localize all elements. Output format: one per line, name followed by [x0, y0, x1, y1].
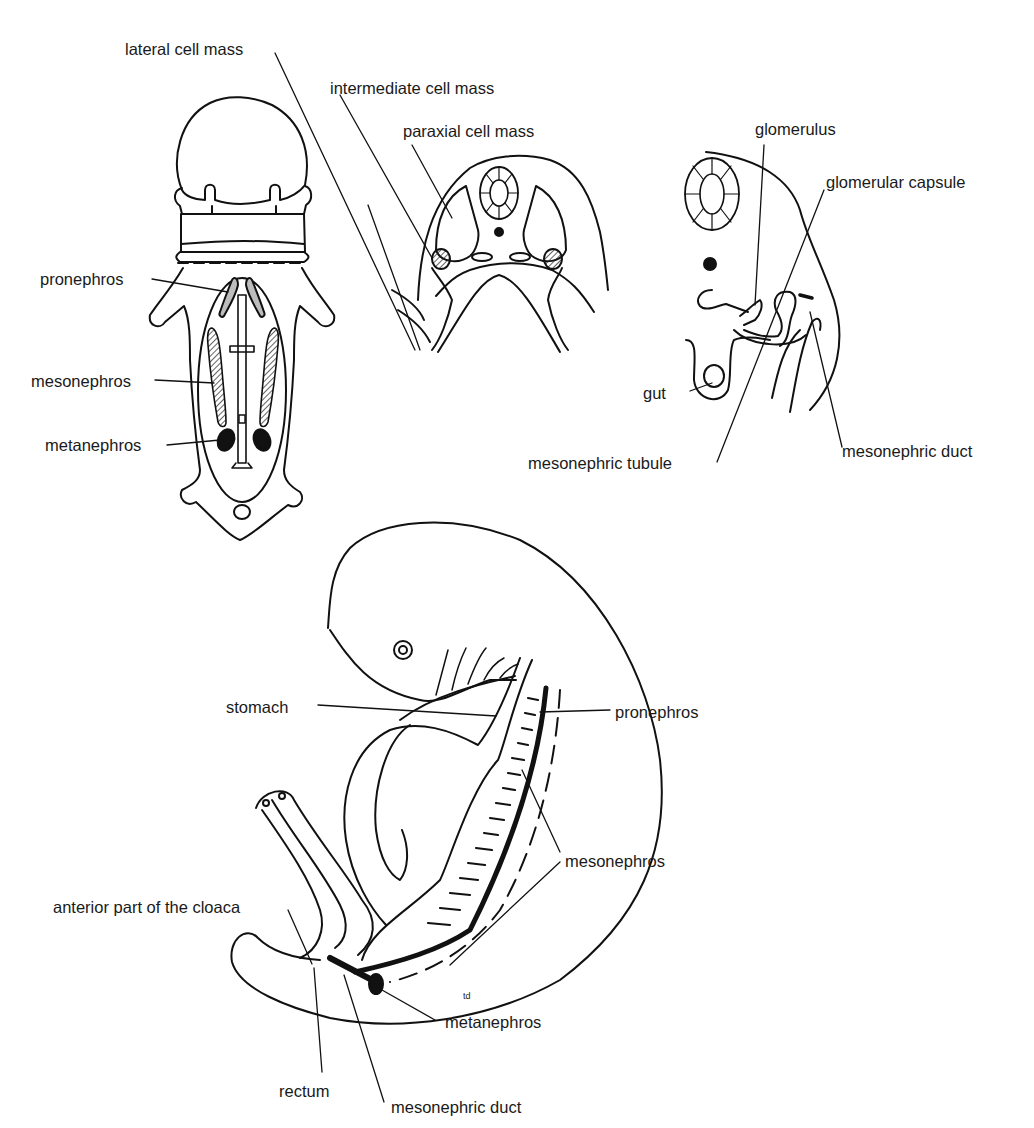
label-rectum: rectum — [279, 1082, 329, 1100]
label-mesonephros-lateral: mesonephros — [565, 852, 665, 870]
label-glomerulus: glomerulus — [755, 120, 836, 138]
label-metanephros-lateral: metanephros — [445, 1013, 541, 1031]
label-intermediate-cell-mass: intermediate cell mass — [330, 79, 494, 97]
label-metanephros-dorsal: metanephros — [45, 436, 141, 454]
label-mesonephric-duct-section: mesonephric duct — [842, 442, 972, 460]
cross-section-early-drawing — [275, 53, 608, 352]
label-paraxial-cell-mass: paraxial cell mass — [403, 122, 534, 140]
label-pronephros-dorsal: pronephros — [40, 270, 123, 288]
cross-section-late-drawing — [685, 145, 842, 462]
label-glomerular-capsule: glomerular capsule — [826, 173, 965, 191]
label-mesonephric-duct-lateral: mesonephric duct — [391, 1098, 521, 1116]
label-lateral-cell-mass: lateral cell mass — [125, 40, 243, 58]
label-pronephros-lateral: pronephros — [615, 703, 698, 721]
label-mesonephros-dorsal: mesonephros — [31, 372, 131, 390]
label-stomach: stomach — [226, 698, 288, 716]
label-mesonephric-tubule: mesonephric tubule — [528, 454, 672, 472]
dorsal-view-drawing — [150, 97, 334, 540]
label-gut: gut — [643, 384, 666, 402]
artist-initials: td — [463, 987, 471, 1005]
label-anterior-cloaca: anterior part of the cloaca — [53, 898, 240, 916]
embryo-kidney-diagram — [0, 0, 1034, 1128]
